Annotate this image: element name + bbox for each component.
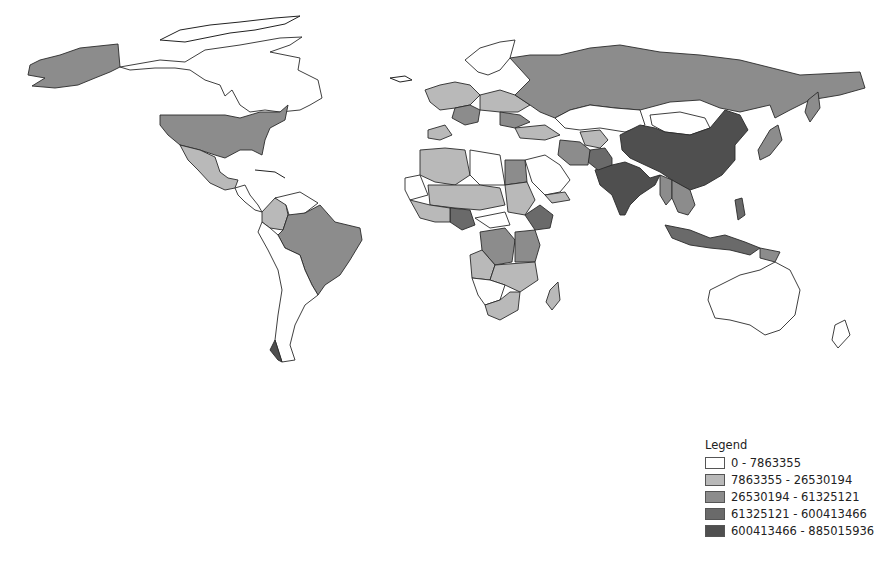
egypt xyxy=(505,160,527,185)
alaska xyxy=(28,44,120,88)
legend-swatch xyxy=(705,457,725,469)
usa xyxy=(160,105,288,158)
libya xyxy=(470,150,505,185)
legend-swatch xyxy=(705,474,725,486)
sudan xyxy=(505,182,535,215)
canada xyxy=(120,16,322,112)
north-africa-west xyxy=(420,148,470,185)
madagascar xyxy=(546,282,560,310)
legend-item: 0 - 7863355 xyxy=(705,454,885,471)
legend-swatch xyxy=(705,508,725,520)
legend-item: 600413466 - 885015936 xyxy=(705,522,885,539)
papua-new-guinea xyxy=(760,248,780,262)
philippines xyxy=(735,198,745,220)
japan xyxy=(758,125,782,160)
legend-label: 600413466 - 885015936 xyxy=(731,524,874,538)
pakistan xyxy=(588,148,612,170)
nigeria xyxy=(450,208,475,230)
india xyxy=(595,162,660,215)
legend-label: 26530194 - 61325121 xyxy=(731,490,860,504)
legend-label: 0 - 7863355 xyxy=(731,456,801,470)
legend-label: 61325121 - 600413466 xyxy=(731,507,867,521)
indonesia xyxy=(665,225,760,255)
legend-item: 61325121 - 600413466 xyxy=(705,505,885,522)
central-african-rep xyxy=(475,212,510,228)
central-america xyxy=(235,185,262,212)
saudi-arabia xyxy=(525,155,570,195)
legend: Legend 0 - 7863355 7863355 - 26530194 26… xyxy=(705,438,885,539)
myanmar xyxy=(660,175,672,205)
legend-item: 7863355 - 26530194 xyxy=(705,471,885,488)
new-zealand xyxy=(832,320,850,348)
australia xyxy=(708,262,800,335)
legend-title: Legend xyxy=(705,438,885,452)
legend-swatch xyxy=(705,491,725,503)
east-africa xyxy=(515,230,540,262)
legend-item: 26530194 - 61325121 xyxy=(705,488,885,505)
legend-swatch xyxy=(705,525,725,537)
mauritania xyxy=(405,175,428,200)
legend-label: 7863355 - 26530194 xyxy=(731,473,852,487)
